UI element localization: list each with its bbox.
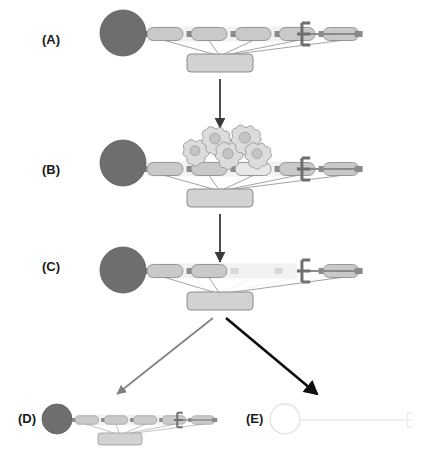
panel-A	[100, 10, 363, 72]
panel-D	[42, 404, 217, 445]
terminal-comb-icon	[297, 23, 310, 45]
blob-core	[190, 146, 200, 156]
blob-core	[252, 149, 262, 159]
panel-label-A: (A)	[42, 32, 60, 47]
panel-label-D: (D)	[18, 411, 36, 426]
chain-segment-2	[191, 265, 227, 278]
panel-B	[100, 125, 363, 207]
blob-core	[239, 132, 250, 143]
head-domain	[100, 247, 146, 293]
head-domain	[270, 404, 300, 434]
base-plate	[187, 54, 253, 72]
chain-segment-2	[191, 28, 227, 41]
chain-segment-1	[147, 28, 183, 41]
arrow-c-to-e	[226, 318, 317, 394]
segment-connector-4	[275, 268, 283, 274]
chain-segment-2	[104, 416, 128, 425]
head-domain	[100, 140, 146, 186]
panels-layer	[42, 10, 413, 445]
base-plate	[187, 189, 253, 207]
blob-core	[223, 149, 233, 159]
chain-segment-1	[75, 416, 99, 425]
head-domain	[100, 10, 146, 56]
chain-segment-3	[133, 416, 157, 425]
segment-connector-3	[231, 268, 239, 274]
base-plate	[98, 433, 142, 445]
panel-label-B: (B)	[42, 162, 60, 177]
terminal-comb-icon	[297, 260, 310, 282]
chain-segment-3	[235, 28, 271, 41]
panel-label-E: (E)	[246, 411, 263, 426]
figure-root: (A)(B)(C)(D)(E)	[0, 0, 426, 465]
panel-label-C: (C)	[42, 259, 60, 274]
diagram-canvas: (A)(B)(C)(D)(E)	[0, 0, 426, 465]
arrow-c-to-d	[117, 318, 213, 394]
head-domain	[42, 404, 72, 434]
panel-labels-layer: (A)(B)(C)(D)(E)	[18, 32, 263, 426]
chain-segment-1	[147, 163, 183, 176]
base-plate	[187, 292, 253, 310]
flow-arrows-layer	[117, 79, 317, 394]
chain-segment-1	[147, 265, 183, 278]
panel-E	[270, 404, 413, 434]
terminal-comb-icon	[404, 413, 413, 428]
blob-core	[210, 133, 221, 144]
panel-C	[100, 247, 363, 310]
terminal-comb-icon	[297, 158, 310, 180]
terminal-comb-icon	[174, 413, 183, 428]
